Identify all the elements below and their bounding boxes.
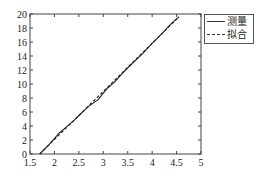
y-tick-label: 10 bbox=[17, 79, 27, 90]
x-tick-label: 2.5 bbox=[73, 157, 86, 168]
x-tick-label: 2 bbox=[52, 157, 57, 168]
y-tick-label: 18 bbox=[17, 23, 27, 34]
legend-item-measured: 测量 bbox=[205, 15, 253, 28]
y-tick-label: 16 bbox=[17, 37, 27, 48]
dashed-line-icon bbox=[207, 34, 225, 35]
legend: 测量 拟合 bbox=[204, 14, 254, 44]
legend-label: 测量 bbox=[227, 16, 247, 28]
y-tick-label: 4 bbox=[22, 121, 27, 132]
plot-area bbox=[30, 14, 201, 154]
y-tick-label: 14 bbox=[17, 51, 27, 62]
x-tick-label: 3 bbox=[101, 157, 106, 168]
y-tick-label: 0 bbox=[22, 149, 27, 160]
y-tick-label: 12 bbox=[17, 65, 27, 76]
y-tick-label: 20 bbox=[17, 9, 27, 20]
solid-line-icon bbox=[207, 21, 225, 22]
x-tick-label: 5 bbox=[199, 157, 204, 168]
y-tick-label: 2 bbox=[22, 135, 27, 146]
y-tick-label: 6 bbox=[22, 107, 27, 118]
x-tick-label: 4 bbox=[150, 157, 155, 168]
legend-item-fit: 拟合 bbox=[205, 28, 253, 41]
y-tick-label: 8 bbox=[22, 93, 27, 104]
legend-label: 拟合 bbox=[227, 29, 247, 41]
x-tick-label: 4.5 bbox=[170, 157, 183, 168]
x-tick-label: 3.5 bbox=[121, 157, 134, 168]
